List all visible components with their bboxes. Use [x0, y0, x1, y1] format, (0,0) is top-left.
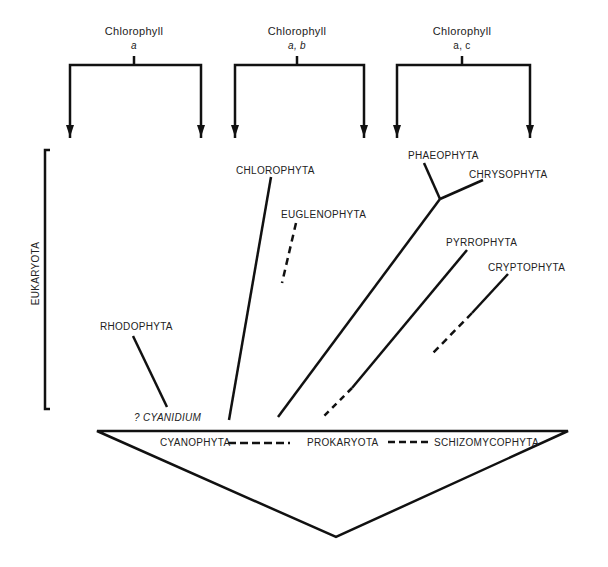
header-chlorophyll-a-pigments: a — [84, 40, 184, 51]
taxon-schizomycophyta: SCHIZOMYCOPHYTA — [434, 437, 539, 448]
taxon-cryptophyta: CRYPTOPHYTA — [488, 262, 565, 273]
taxon-cyanophyta: CYANOPHYTA — [160, 437, 230, 448]
taxon-phaeophyta: PHAEOPHYTA — [408, 150, 479, 161]
header-chlorophyll-ab-pigments: a, b — [247, 40, 347, 51]
taxon-cyanidium: ? CYANIDIUM — [134, 412, 201, 423]
pigment-bracket-a — [66, 56, 205, 138]
phylogeny-diagram: Chlorophyll a Chlorophyll a, b Chlorophy… — [0, 0, 608, 567]
taxon-chlorophyta: CHLOROPHYTA — [236, 165, 315, 176]
pigment-bracket-ac — [393, 56, 534, 138]
taxon-euglenophyta: EUGLENOPHYTA — [281, 209, 366, 220]
header-chlorophyll-ab-title: Chlorophyll — [247, 25, 347, 37]
header-chlorophyll-a-title: Chlorophyll — [84, 25, 184, 37]
header-chlorophyll-ac-title: Chlorophyll — [412, 25, 512, 37]
eukaryota-bracket — [45, 150, 50, 409]
taxon-rhodophyta: RHODOPHYTA — [100, 321, 173, 332]
taxon-chrysophyta: CHRYSOPHYTA — [469, 169, 548, 180]
header-chlorophyll-ac-pigments: a, c — [412, 40, 512, 51]
eukaryota-label: EUKARYOTA — [30, 239, 41, 309]
pigment-bracket-ab — [231, 56, 368, 138]
diagram-lines — [0, 0, 608, 567]
prokaryota-label: PROKARYOTA — [307, 437, 379, 448]
taxon-pyrrophyta: PYRROPHYTA — [446, 237, 517, 248]
